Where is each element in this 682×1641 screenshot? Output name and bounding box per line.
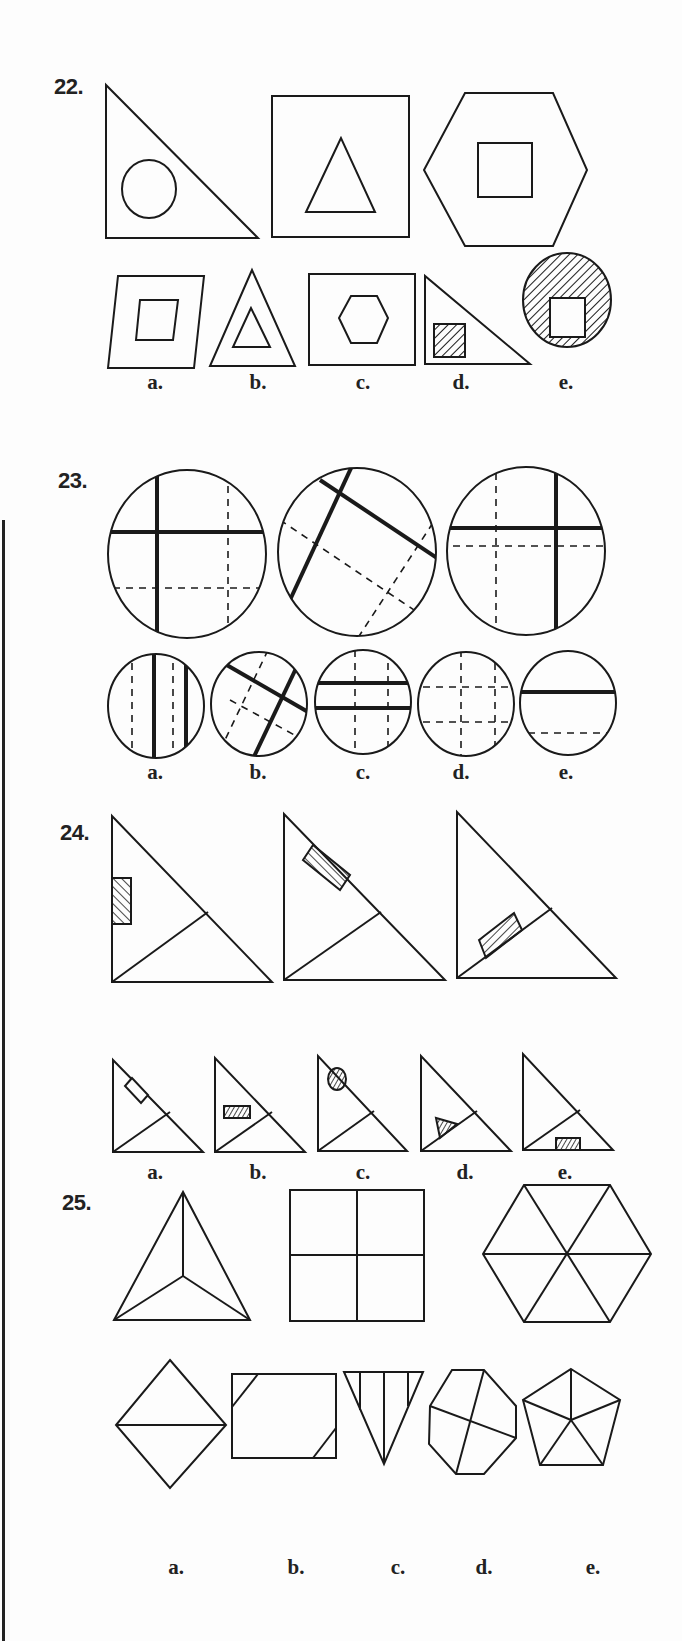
option-d-figure[interactable]	[429, 1370, 516, 1474]
question-25-figures	[0, 1170, 682, 1641]
option-label-d[interactable]: d.	[476, 1555, 493, 1580]
option-label-b[interactable]: b.	[288, 1555, 305, 1580]
circle-cross-figure-1	[100, 460, 280, 650]
option-label-d[interactable]: d.	[453, 370, 470, 395]
option-e-figure[interactable]	[515, 651, 625, 755]
option-label-a[interactable]: a.	[147, 370, 163, 395]
option-label-b[interactable]: b.	[250, 370, 267, 395]
option-c-figure[interactable]	[344, 1372, 423, 1464]
option-e-figure[interactable]	[523, 253, 611, 347]
triangle-figure-1	[112, 816, 272, 982]
option-label-c[interactable]: c.	[356, 370, 371, 395]
question-24: 24.	[0, 800, 682, 1170]
option-label-c[interactable]: c.	[356, 760, 371, 785]
option-label-a[interactable]: a.	[147, 760, 163, 785]
question-23-figures	[0, 420, 682, 800]
option-c-figure[interactable]	[309, 274, 415, 365]
option-d-figure[interactable]	[425, 276, 530, 364]
option-b-figure[interactable]	[215, 1058, 305, 1152]
option-b-figure[interactable]	[211, 650, 315, 765]
triangle-spokes-figure	[114, 1192, 250, 1320]
hexagon-spokes-figure	[483, 1185, 651, 1322]
right-triangle-circle-figure	[106, 85, 258, 238]
option-label-a[interactable]: a.	[168, 1555, 184, 1580]
option-e-figure[interactable]	[523, 1054, 613, 1150]
option-label-e[interactable]: e.	[586, 1555, 601, 1580]
option-a-figure[interactable]	[113, 1060, 203, 1152]
square-quadrants-figure	[290, 1190, 424, 1321]
question-23: 23.	[0, 420, 682, 800]
question-25: 25.	[0, 1170, 682, 1641]
hexagon-square-figure	[424, 93, 587, 246]
option-label-c[interactable]: c.	[391, 1555, 406, 1580]
option-c-figure[interactable]	[310, 650, 420, 760]
question-22-figures	[0, 0, 682, 420]
option-a-figure[interactable]	[108, 276, 204, 368]
option-a-figure[interactable]	[116, 1360, 226, 1488]
square-triangle-figure	[272, 96, 409, 237]
question-22: 22.	[0, 0, 682, 420]
option-label-e[interactable]: e.	[559, 370, 574, 395]
option-label-b[interactable]: b.	[250, 760, 267, 785]
triangle-figure-3	[457, 812, 616, 978]
option-e-figure[interactable]	[523, 1369, 620, 1465]
option-c-figure[interactable]	[318, 1056, 407, 1151]
triangle-figure-2	[284, 814, 445, 980]
option-a-figure[interactable]	[108, 650, 204, 765]
circle-cross-figure-3	[440, 460, 615, 650]
option-b-figure[interactable]	[210, 270, 295, 366]
option-label-e[interactable]: e.	[559, 760, 574, 785]
option-d-figure[interactable]	[410, 650, 520, 760]
option-label-d[interactable]: d.	[453, 760, 470, 785]
circle-cross-figure-2	[278, 466, 440, 650]
option-b-figure[interactable]	[232, 1374, 336, 1458]
option-d-figure[interactable]	[421, 1056, 511, 1151]
question-24-figures	[0, 800, 682, 1170]
